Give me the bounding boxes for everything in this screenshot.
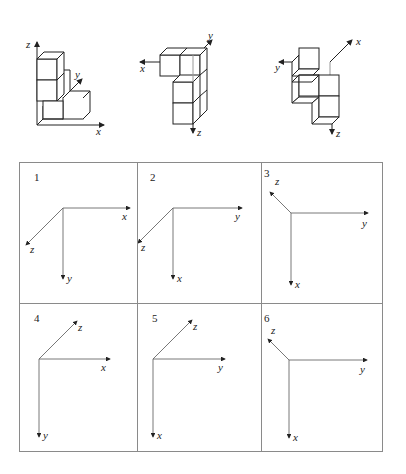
cube-figure-c: x y z (265, 25, 375, 140)
axis-label-diagonal: z (29, 243, 35, 255)
cube-figure-b-drawing: x y z (130, 25, 230, 140)
axis-label-down: y (66, 272, 72, 284)
axes-diagram-2: y x z (138, 163, 261, 303)
option-cell-3[interactable]: 3 y x z (262, 163, 384, 303)
z-axis-label: z (196, 126, 202, 138)
axes-diagram-6: y x z (262, 304, 384, 453)
axis-label-down: x (156, 429, 162, 441)
axis-label-right: x (121, 210, 127, 222)
cube-figure-a: z x y (20, 30, 120, 145)
x-axis-label: x (95, 125, 101, 137)
axis-label-right: y (361, 217, 367, 229)
x-axis-label: x (139, 62, 145, 74)
axis-label-down: x (176, 272, 182, 284)
axes-diagram-5: y x z (138, 304, 261, 453)
axis-label-down: x (292, 431, 298, 443)
axes-diagram-3: y x z (262, 163, 384, 303)
option-cell-4[interactable]: 4 x y z (20, 304, 137, 453)
cube-figure-a-drawing: z x y (20, 30, 120, 145)
cube-figure-b: x y z (130, 25, 230, 140)
axes-diagram-1: x y z (20, 163, 137, 303)
axis-label-right: y (217, 361, 223, 373)
y-axis-label: y (274, 61, 280, 73)
cube-figure-c-drawing: x y z (265, 25, 375, 140)
axis-label-diagonal: z (77, 321, 83, 333)
axis-label-down: x (294, 278, 300, 290)
x-axis-label: x (355, 35, 361, 47)
option-cell-5[interactable]: 5 y x z (138, 304, 261, 453)
axis-label-diagonal: z (274, 175, 280, 187)
option-cell-1[interactable]: 1 x y z (20, 163, 137, 303)
z-axis-label: z (25, 38, 31, 50)
y-axis-label: y (74, 68, 80, 80)
y-axis-label: y (207, 29, 213, 41)
axis-label-right: y (359, 363, 365, 375)
option-cell-6[interactable]: 6 y x z (262, 304, 384, 453)
answer-options-grid: 1 x y z 2 y x z 3 (19, 162, 383, 452)
z-axis-label: z (335, 127, 341, 139)
option-cell-2[interactable]: 2 y x z (138, 163, 261, 303)
axis-label-diagonal: z (140, 241, 146, 253)
axes-diagram-4: x y z (20, 304, 137, 453)
axis-label-right: y (234, 210, 240, 222)
axis-label-diagonal: z (270, 324, 276, 336)
axis-label-down: y (42, 429, 48, 441)
axis-label-right: x (100, 361, 106, 373)
axis-label-diagonal: z (192, 320, 198, 332)
x-axis (330, 40, 352, 62)
